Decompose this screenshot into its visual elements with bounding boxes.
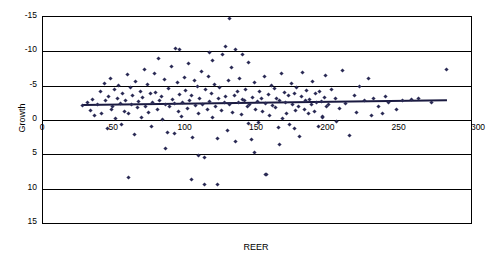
data-point [91, 97, 95, 101]
data-point [198, 96, 202, 100]
data-point [192, 79, 196, 83]
data-point [318, 90, 322, 94]
data-point [252, 80, 256, 84]
data-point [139, 115, 143, 119]
data-point [369, 113, 373, 117]
x-axis-tick: 200 [315, 122, 339, 132]
data-point [286, 94, 290, 98]
x-axis-tick: 0 [30, 122, 54, 132]
data-point [246, 60, 250, 64]
data-point [266, 92, 270, 96]
y-axis-tick: -5 [7, 79, 37, 89]
data-point [299, 95, 303, 99]
data-point [338, 106, 342, 110]
data-point [178, 92, 182, 96]
data-point [362, 99, 366, 103]
data-point [211, 59, 215, 63]
y-axis-tick: 5 [7, 147, 37, 157]
y-axis-tick: -15 [7, 10, 37, 20]
data-point [262, 75, 266, 79]
data-point [115, 97, 119, 101]
data-point [148, 91, 152, 95]
data-point [272, 86, 276, 90]
data-point [226, 78, 230, 82]
data-point [155, 108, 159, 112]
data-point [263, 101, 267, 105]
data-point [164, 147, 168, 151]
data-point [215, 182, 219, 186]
data-point [104, 99, 108, 103]
data-point [131, 93, 135, 97]
data-point [168, 105, 172, 109]
data-point [162, 77, 166, 81]
data-point [135, 106, 139, 110]
data-point [179, 114, 183, 118]
data-point [142, 67, 146, 71]
data-point [243, 88, 247, 92]
data-point [209, 92, 213, 96]
data-point [313, 92, 317, 96]
data-point [268, 114, 272, 118]
data-point [239, 112, 243, 116]
data-point [348, 133, 352, 137]
data-point [125, 73, 129, 77]
data-point [292, 91, 296, 95]
x-axis-tick: 150 [244, 122, 268, 132]
data-point [189, 177, 193, 181]
data-point [229, 66, 233, 70]
data-point [138, 89, 142, 93]
data-point [395, 108, 399, 112]
data-point [383, 95, 387, 99]
x-axis-tick: 100 [173, 122, 197, 132]
data-point [108, 76, 112, 80]
x-axis-tick: 250 [387, 122, 411, 132]
data-point [216, 97, 220, 101]
data-point [214, 104, 218, 108]
data-point [273, 106, 277, 110]
data-point [312, 109, 316, 113]
data-point [149, 124, 153, 128]
data-point [249, 138, 253, 142]
scatter-chart: Growth REER 151050-5-10-1505010015020025… [0, 0, 497, 266]
data-point [196, 154, 200, 158]
data-point [95, 103, 99, 107]
data-point [306, 112, 310, 116]
data-point [241, 53, 245, 57]
data-point [235, 90, 239, 94]
data-point [253, 108, 257, 112]
data-point [194, 103, 198, 107]
data-point [184, 88, 188, 92]
gridline [43, 86, 471, 87]
data-point [302, 107, 306, 111]
data-point [261, 110, 265, 114]
data-point [199, 69, 203, 73]
data-point [309, 102, 313, 106]
data-point [236, 101, 240, 105]
x-axis-label: REER [216, 242, 296, 252]
data-point [223, 44, 227, 48]
data-point [279, 72, 283, 76]
data-point [182, 75, 186, 79]
data-point [107, 95, 111, 99]
data-point [259, 97, 263, 101]
data-point [166, 86, 170, 90]
data-point [380, 111, 384, 115]
data-point [322, 95, 326, 99]
data-point [116, 84, 120, 88]
data-point [205, 107, 209, 111]
data-point [376, 104, 380, 108]
data-point [340, 68, 344, 72]
data-point [355, 110, 359, 114]
gridline [43, 189, 471, 190]
data-point [358, 84, 362, 88]
data-point [319, 99, 323, 103]
gridline [43, 154, 471, 155]
data-point [301, 70, 305, 74]
data-point [176, 109, 180, 113]
y-axis-tick: 15 [7, 216, 37, 226]
data-point [225, 128, 229, 132]
data-point [352, 93, 356, 97]
data-point [112, 88, 116, 92]
data-point [128, 85, 132, 89]
data-point [175, 81, 179, 85]
